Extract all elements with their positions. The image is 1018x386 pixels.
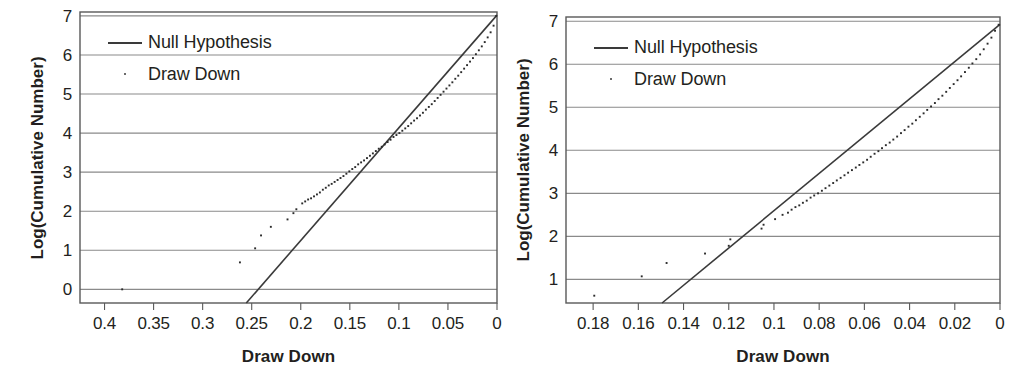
legend-label-draw-down: Draw Down <box>634 70 726 88</box>
data-point <box>877 150 879 152</box>
data-point <box>911 123 913 125</box>
data-point <box>322 189 324 191</box>
data-point <box>416 117 418 119</box>
data-point <box>304 200 306 202</box>
data-point <box>490 31 492 33</box>
data-point <box>316 193 318 195</box>
data-point <box>983 48 985 50</box>
data-point <box>419 115 421 117</box>
legend-entry-draw-down: Draw Down <box>588 63 758 95</box>
figure-root: Log(Cumulative Number) Draw Down Null Hy… <box>0 0 1018 386</box>
y-axis-tick-label: 6 <box>40 46 72 63</box>
data-point <box>463 68 465 70</box>
data-point <box>398 132 400 134</box>
data-point <box>348 170 350 172</box>
data-point <box>443 91 445 93</box>
chart-panel-right: Log(Cumulative Number) Draw Down Null Hy… <box>508 0 1018 386</box>
data-point <box>334 181 336 183</box>
data-point <box>782 214 784 216</box>
data-point <box>825 187 827 189</box>
y-axis-tick-label: 2 <box>526 228 558 245</box>
data-point <box>892 139 894 141</box>
x-axis-tick-label: 0.35 <box>137 315 169 332</box>
legend-line-swatch-icon <box>102 32 148 52</box>
data-point <box>885 144 887 146</box>
y-axis-tick-label: 3 <box>526 185 558 202</box>
x-axis-tick-label: 0.02 <box>939 315 971 332</box>
data-point <box>704 253 706 255</box>
data-point <box>410 122 412 124</box>
chart-panel-left: Log(Cumulative Number) Draw Down Null Hy… <box>0 0 510 386</box>
x-axis-tick-label: 0.04 <box>893 315 925 332</box>
data-point <box>975 58 977 60</box>
data-point <box>794 206 796 208</box>
data-point <box>422 112 424 114</box>
data-point <box>357 163 359 165</box>
data-point <box>844 174 846 176</box>
data-point <box>475 53 477 55</box>
data-point <box>393 136 395 138</box>
data-point <box>666 262 668 264</box>
data-point <box>384 143 386 145</box>
data-point <box>425 109 427 111</box>
legend-entry-null-hypothesis: Null Hypothesis <box>102 26 272 58</box>
data-point <box>407 125 409 127</box>
data-point <box>387 141 389 143</box>
legend-label-null-hypothesis: Null Hypothesis <box>634 38 758 56</box>
data-point <box>295 208 297 210</box>
data-point <box>874 153 876 155</box>
x-axis-tick-label: 0.12 <box>713 315 745 332</box>
data-point <box>881 147 883 149</box>
data-point <box>900 132 902 134</box>
data-point <box>915 119 917 121</box>
series-line-null-hypothesis <box>246 15 497 303</box>
data-point <box>363 159 365 161</box>
data-point <box>979 53 981 55</box>
y-axis-tick-label: 6 <box>526 56 558 73</box>
y-axis-tick-label: 2 <box>40 203 72 220</box>
data-point <box>870 156 872 158</box>
y-axis-tick-label: 3 <box>40 164 72 181</box>
data-point <box>761 228 763 230</box>
y-axis-tick-label: 1 <box>40 242 72 259</box>
x-axis-tick-label: 0.14 <box>667 315 699 332</box>
x-axis-tick-label: 0.06 <box>848 315 880 332</box>
data-point <box>949 87 951 89</box>
data-point <box>451 81 453 83</box>
data-point <box>340 177 342 179</box>
data-point <box>466 64 468 66</box>
data-point <box>301 202 303 204</box>
data-point <box>904 129 906 131</box>
data-point <box>934 102 936 104</box>
data-point <box>457 75 459 77</box>
data-point <box>460 71 462 73</box>
data-point <box>292 212 294 214</box>
data-point <box>851 169 853 171</box>
data-point <box>763 224 765 226</box>
x-axis-tick-label: 0.1 <box>762 315 785 332</box>
data-point <box>310 197 312 199</box>
y-axis-tick-label: 5 <box>40 86 72 103</box>
data-point <box>413 120 415 122</box>
data-point <box>923 112 925 114</box>
data-point <box>787 212 789 214</box>
x-axis-tick-label: 0.18 <box>577 315 609 332</box>
legend-entry-null-hypothesis: Null Hypothesis <box>588 31 758 63</box>
data-point <box>953 83 955 85</box>
data-point <box>836 179 838 181</box>
y-axis-tick-label: 7 <box>526 13 558 30</box>
data-point <box>437 97 439 99</box>
data-point <box>832 182 834 184</box>
data-point <box>401 130 403 132</box>
x-axis-tick-label: 0.16 <box>622 315 654 332</box>
data-point <box>121 288 123 290</box>
data-point <box>945 91 947 93</box>
x-axis-tick-label: 0.05 <box>432 315 464 332</box>
data-point <box>381 146 383 148</box>
data-point <box>395 134 397 136</box>
data-point <box>855 167 857 169</box>
x-axis-tick-label: 0.1 <box>387 315 410 332</box>
data-point <box>828 185 830 187</box>
data-point <box>802 202 804 204</box>
data-point <box>313 195 315 197</box>
